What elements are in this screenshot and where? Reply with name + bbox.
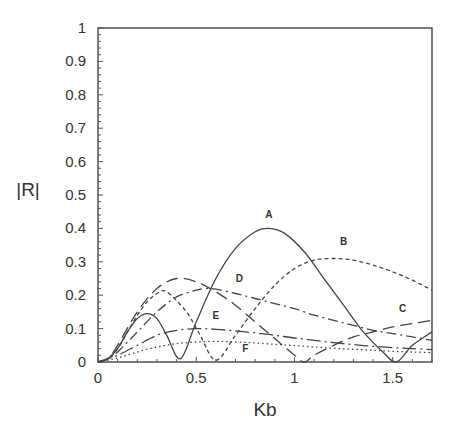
y-tick-label: 0.6: [65, 153, 86, 170]
y-tick-label: 1: [78, 19, 86, 36]
curve-label-a: A: [265, 209, 272, 220]
y-tick-label: 0.5: [65, 186, 86, 203]
y-tick-label: 0.8: [65, 86, 86, 103]
x-axis-title: Kb: [253, 399, 276, 420]
curve-label-b: B: [340, 236, 347, 247]
curve-label-e: E: [213, 310, 220, 321]
y-axis-title: |R|: [16, 179, 40, 200]
curve-e: [98, 329, 432, 362]
y-tick-label: 0.7: [65, 119, 86, 136]
curve-a: [98, 228, 432, 362]
y-tick-label: 0: [78, 353, 86, 370]
x-tick-label: 0: [94, 369, 102, 386]
y-tick-label: 0.1: [65, 320, 86, 337]
y-tick-label: 0.3: [65, 253, 86, 270]
curve-label-c: C: [399, 303, 406, 314]
y-tick-label: 0.2: [65, 286, 86, 303]
x-tick-label: 0.5: [186, 369, 207, 386]
curve-labels: ABCDEF: [213, 209, 407, 354]
x-tick-label: 1.5: [382, 369, 403, 386]
curve-label-d: D: [236, 273, 243, 284]
y-tick-label: 0.4: [65, 219, 86, 236]
curve-label-f: F: [242, 343, 248, 354]
y-tick-label: 0.9: [65, 52, 86, 69]
chart: 00.10.20.30.40.50.60.70.80.91 00.511.5 A…: [0, 0, 453, 437]
curves: [98, 228, 432, 362]
plot-frame: [98, 28, 432, 362]
x-tick-label: 1: [290, 369, 298, 386]
